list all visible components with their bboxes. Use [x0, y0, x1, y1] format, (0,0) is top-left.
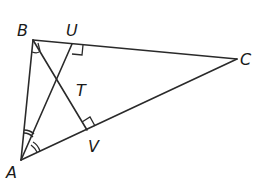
- right-angle-marker-u: [72, 45, 83, 55]
- label-a: A: [5, 163, 17, 182]
- angle-arc-a-inner-2: [31, 145, 37, 152]
- label-u: U: [66, 21, 78, 40]
- angle-arc-b: [32, 51, 40, 53]
- side-ab: [21, 40, 33, 160]
- angle-arc-a-outer-2: [24, 133, 33, 137]
- label-t: T: [76, 81, 87, 100]
- angle-arc-a-inner-1: [33, 142, 40, 151]
- label-b: B: [17, 21, 28, 40]
- side-bc: [33, 40, 237, 59]
- label-v: V: [88, 137, 100, 156]
- label-c: C: [240, 50, 252, 69]
- triangle-diagram: B U C T V A: [0, 0, 268, 190]
